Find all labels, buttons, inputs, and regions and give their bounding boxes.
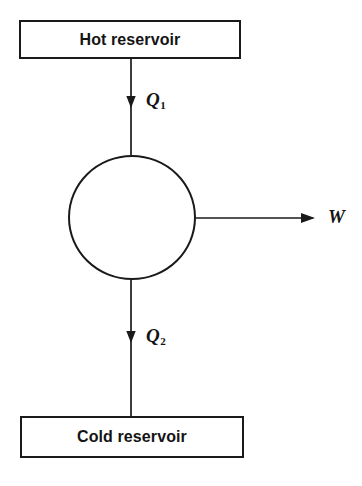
cold-reservoir-box: Cold reservoir (20, 416, 244, 458)
hot-reservoir-box: Hot reservoir (19, 20, 241, 59)
work-out-arrowhead (301, 213, 315, 223)
heat-out-subscript: 2 (160, 335, 166, 347)
work-out-label: W (328, 206, 345, 228)
work-out-symbol: W (328, 206, 345, 227)
hot-reservoir-label: Hot reservoir (80, 31, 181, 49)
heat-out-label: Q2 (146, 325, 165, 347)
heat-engine-diagram: Hot reservoir Cold reservoir Q1 Q2 W (0, 0, 362, 486)
heat-out-arrowhead (126, 331, 135, 343)
heat-out-symbol: Q (146, 325, 160, 346)
heat-in-label: Q1 (146, 89, 165, 111)
heat-in-arrowhead (126, 96, 135, 108)
heat-in-subscript: 1 (160, 99, 166, 111)
cold-reservoir-label: Cold reservoir (77, 428, 187, 446)
heat-engine-circle (68, 155, 196, 280)
heat-in-symbol: Q (146, 89, 160, 110)
